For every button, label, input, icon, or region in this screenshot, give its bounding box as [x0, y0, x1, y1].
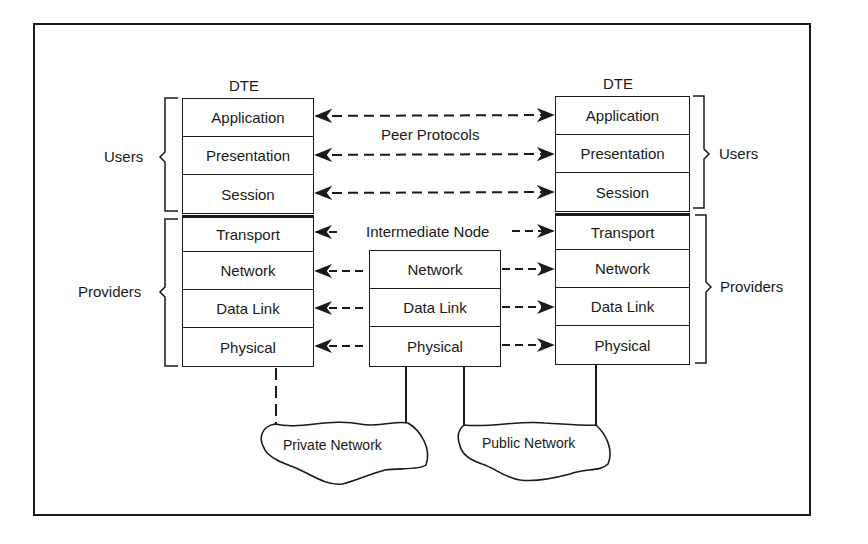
- intermediate-layer-physical: Physical: [369, 326, 501, 367]
- left-layer-transport: Transport: [182, 215, 314, 252]
- left-providers-label: Providers: [78, 283, 141, 300]
- right-layer-transport: Transport: [555, 213, 690, 250]
- private-network-label: Private Network: [283, 437, 382, 453]
- right-layer-network: Network: [555, 249, 690, 288]
- intermediate-node-stack: Network Data Link Physical: [369, 250, 501, 367]
- right-layer-session: Session: [555, 172, 690, 212]
- right-dte-stack: Application Presentation Session Transpo…: [555, 96, 690, 366]
- left-layer-network: Network: [182, 251, 314, 290]
- left-layer-physical: Physical: [182, 327, 314, 367]
- left-layer-presentation: Presentation: [182, 136, 314, 175]
- right-users-label: Users: [719, 145, 758, 162]
- osi-diagram: DTE Application Presentation Session Tra…: [0, 0, 868, 544]
- intermediate-node-label: Intermediate Node: [364, 223, 491, 240]
- peer-arrow-application: [316, 115, 553, 116]
- right-layer-physical: Physical: [555, 325, 690, 365]
- left-layer-session: Session: [182, 174, 314, 214]
- left-dte-stack: Application Presentation Session Transpo…: [182, 98, 314, 368]
- users-brace-right: [693, 96, 709, 208]
- providers-brace-left: [160, 219, 178, 366]
- intermediate-layer-data-link: Data Link: [369, 288, 501, 327]
- left-layer-data-link: Data Link: [182, 289, 314, 328]
- private-network-cloud: [261, 422, 427, 484]
- right-layer-application: Application: [555, 96, 690, 135]
- left-users-label: Users: [104, 148, 143, 165]
- users-brace-left: [160, 98, 178, 211]
- intermediate-layer-network: Network: [369, 250, 501, 289]
- left-layer-application: Application: [182, 98, 314, 137]
- peer-arrow-session: [316, 192, 553, 193]
- right-layer-data-link: Data Link: [555, 287, 690, 326]
- peer-arrow-presentation: [316, 154, 553, 155]
- right-providers-label: Providers: [720, 278, 783, 295]
- right-dte-label: DTE: [603, 75, 633, 92]
- public-network-label: Public Network: [482, 435, 575, 451]
- right-layer-presentation: Presentation: [555, 134, 690, 173]
- left-dte-label: DTE: [229, 77, 259, 94]
- peer-protocols-label: Peer Protocols: [381, 126, 479, 143]
- providers-brace-right: [695, 215, 711, 363]
- public-network-cloud: [458, 422, 610, 480]
